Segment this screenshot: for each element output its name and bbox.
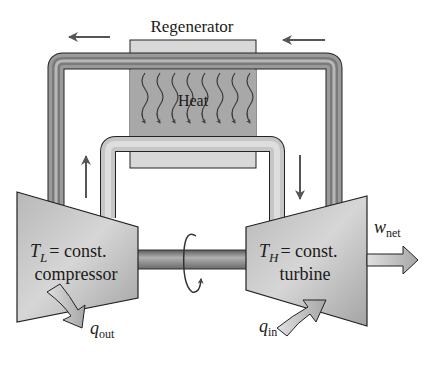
compressor-label: compressor <box>35 264 118 284</box>
regenerator-label: Regenerator <box>150 17 233 36</box>
w-subscript: net <box>386 226 401 240</box>
temp-subscript: L <box>39 250 47 265</box>
work-net-label: wnet <box>374 217 401 240</box>
temp-subscript: H <box>268 250 279 265</box>
work-out-arrow-icon <box>367 246 418 274</box>
temp-rest: = const. <box>280 241 337 261</box>
ericsson-cycle-diagram: Regenerator Heat TL= const. compressor T… <box>0 0 448 366</box>
turbine <box>246 196 367 326</box>
q-subscript: out <box>99 327 115 341</box>
heat-label: Heat <box>178 92 209 109</box>
heat-in-label: qin <box>259 316 277 339</box>
w-symbol: w <box>374 217 386 237</box>
temp-rest: = const. <box>49 241 106 261</box>
q-subscript: in <box>268 325 277 339</box>
heat-out-label: qout <box>90 318 115 341</box>
shaft <box>136 250 248 269</box>
turbine-label: turbine <box>280 264 331 284</box>
q-symbol: q <box>259 316 268 336</box>
q-symbol: q <box>90 318 99 338</box>
